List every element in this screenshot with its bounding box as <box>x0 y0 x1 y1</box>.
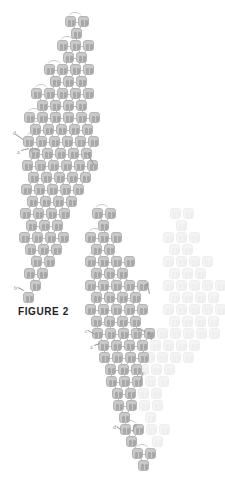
reference-label: d <box>113 424 116 430</box>
figure-caption: FIGURE 2 <box>18 306 69 317</box>
reference-lead-line <box>140 373 143 382</box>
reference-lead-line <box>21 148 29 151</box>
reference-lead-line <box>15 134 23 140</box>
reference-lead-line <box>33 148 40 151</box>
reference-lead-line <box>139 328 146 333</box>
reference-lead-line <box>88 330 95 335</box>
reference-lead-line <box>147 284 150 294</box>
reference-label: a <box>17 149 20 155</box>
reference-label: a <box>90 344 93 350</box>
reference-lead-line <box>132 425 135 432</box>
reference-lead-line <box>18 287 24 291</box>
reference-lead-line <box>116 426 122 431</box>
reference-label: b <box>14 285 17 291</box>
reference-lead-line <box>94 343 100 346</box>
reference-lead-line <box>149 333 152 340</box>
figure-diagram: dabcbdcaabcda FIGURE 2 <box>0 0 225 493</box>
annotation-layer: dabcbdcaabcda <box>0 0 225 493</box>
